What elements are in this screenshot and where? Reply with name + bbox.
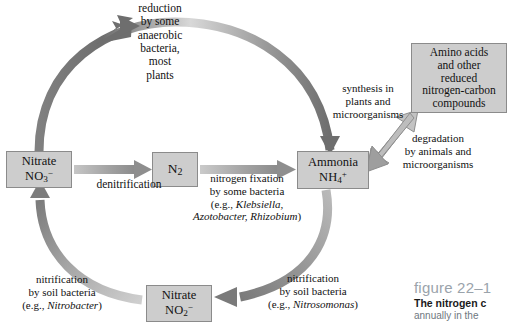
arrow-denitrification <box>74 160 152 179</box>
label-nitrification-nitrobacter: nitrification by soil bacteria (e.g., Ni… <box>4 273 120 311</box>
synthesis-line-2: plants and <box>316 95 420 108</box>
label-degradation: degradation by animals and microorganism… <box>384 132 492 170</box>
nitrification-right-line-2: by soil bacteria <box>252 285 374 298</box>
fixation-line-4: Azotobacter, Rhizobium) <box>186 210 308 223</box>
nitrification-left-line-3: (e.g., Nitrobacter) <box>4 299 120 312</box>
label-denitrification: denitrification <box>74 178 184 191</box>
figure-body-text: annually in the <box>414 310 514 321</box>
nitrification-left-line-1: nitrification <box>4 273 120 286</box>
label-nitrification-nitrosomonas: nitrification by soil bacteria (e.g., Ni… <box>252 272 374 310</box>
nitrite-formula: NO2− <box>165 302 193 319</box>
figure-caption: figure 22–1 The nitrogen c annually in t… <box>414 279 514 321</box>
amino-line-2: and other <box>437 59 480 72</box>
denitrification-line-1: denitrification <box>74 178 184 191</box>
reduction-line-1: reduction <box>115 2 205 15</box>
nitrification-right-line-1: nitrification <box>252 272 374 285</box>
label-synthesis: synthesis in plants and microorganisms <box>316 82 420 120</box>
nitrate-no3-formula: NO3− <box>25 168 53 185</box>
nitrate-no3-box: Nitrate NO3− <box>6 151 72 188</box>
figure-title: The nitrogen c <box>414 297 514 309</box>
amino-line-3: reduced <box>441 72 477 85</box>
amino-acids-box: Amino acids and other reduced nitrogen-c… <box>411 43 507 113</box>
nitrate-no3-label: Nitrate <box>22 154 57 168</box>
synthesis-line-3: microorganisms <box>316 108 420 121</box>
fixation-line-1: nitrogen fixation <box>186 172 308 185</box>
ammonia-formula: NH4+ <box>319 169 347 186</box>
fixation-line-2: by some bacteria <box>186 185 308 198</box>
amino-line-5: compounds <box>432 97 485 110</box>
reduction-line-4: bacteria, <box>115 42 205 55</box>
nitrite-label: Nitrate <box>162 288 197 302</box>
figure-number: figure 22–1 <box>414 279 514 296</box>
nitrite-box: Nitrate NO2− <box>146 285 212 322</box>
ammonia-label: Ammonia <box>308 155 358 169</box>
reduction-line-2: by some <box>115 15 205 28</box>
synthesis-line-1: synthesis in <box>316 82 420 95</box>
reduction-line-3: anaerobic <box>115 29 205 42</box>
degradation-line-2: by animals and <box>384 145 492 158</box>
amino-line-4: nitrogen-carbon <box>422 84 495 97</box>
reduction-line-5: most <box>115 55 205 68</box>
nitrification-left-line-2: by soil bacteria <box>4 286 120 299</box>
nitrogen-cycle-figure: Nitrate NO3− N2 Ammonia NH4+ Nitrate NO2… <box>0 0 514 322</box>
amino-line-1: Amino acids <box>430 46 488 59</box>
n2-formula: N2 <box>168 161 183 178</box>
fixation-line-3: (e.g., Klebsiella, <box>186 198 308 211</box>
nitrification-right-line-3: (e.g., Nitrosomonas) <box>252 298 374 311</box>
degradation-line-3: microorganisms <box>384 158 492 171</box>
degradation-line-1: degradation <box>384 132 492 145</box>
reduction-line-6: plants <box>115 69 205 82</box>
label-nitrogen-fixation: nitrogen fixation by some bacteria (e.g.… <box>186 172 308 223</box>
label-reduction: reduction by some anaerobic bacteria, mo… <box>115 2 205 82</box>
